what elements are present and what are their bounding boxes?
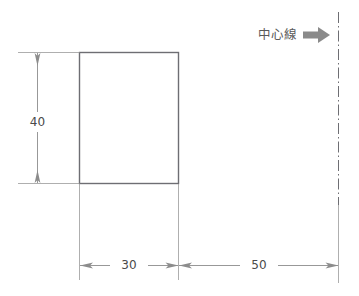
centerline-pointer-arrow-icon — [303, 27, 330, 43]
dimension-label-offset: 50 — [251, 258, 266, 272]
technical-drawing: 40 30 50 中心線 — [0, 0, 359, 296]
dimension-label-height: 40 — [30, 115, 45, 129]
part-rectangle — [80, 53, 179, 184]
centerline-label: 中心線 — [258, 27, 297, 42]
dimension-label-width: 30 — [121, 258, 136, 272]
drawing-canvas: 40 30 50 中心線 — [0, 0, 359, 296]
